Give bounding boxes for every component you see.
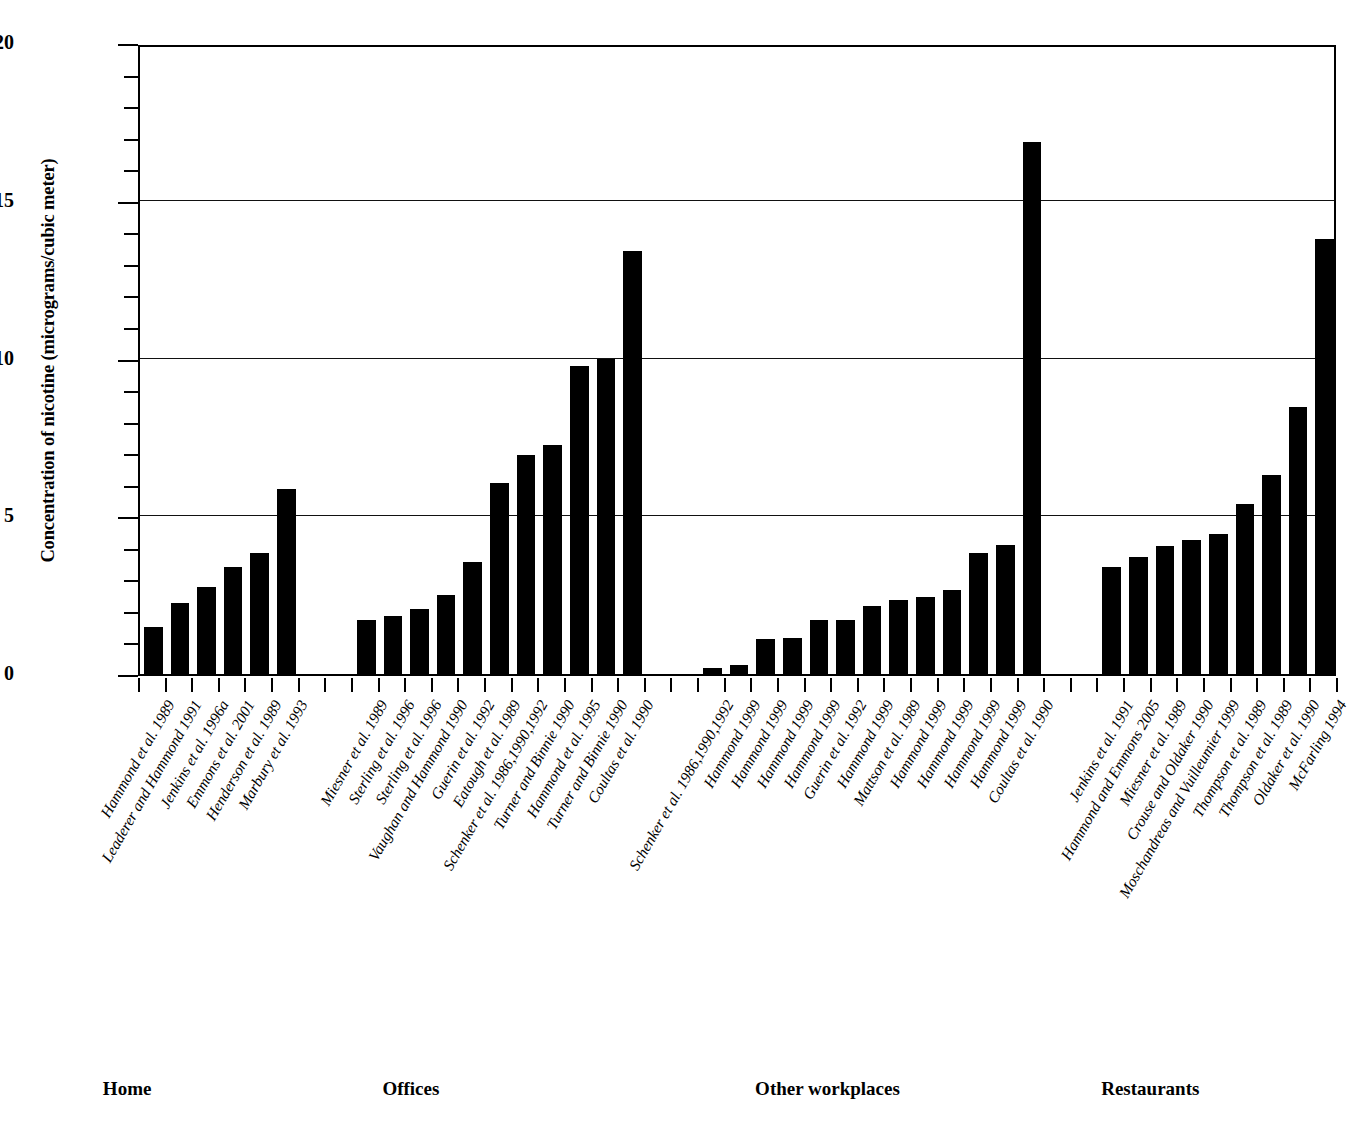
x-tick: [324, 678, 326, 692]
x-tick: [271, 678, 273, 692]
bar: [224, 567, 243, 674]
bar: [1102, 567, 1121, 674]
y-axis-title: Concentration of nicotine (micrograms/cu…: [38, 41, 59, 681]
y-tick-0: [118, 675, 138, 677]
y-tick-label-20: 20: [0, 31, 14, 54]
x-tick: [404, 678, 406, 692]
bar: [1156, 546, 1175, 674]
x-tick: [883, 678, 885, 692]
bar: [543, 445, 562, 674]
y-tick-9: [124, 391, 138, 393]
bar: [943, 590, 962, 674]
bar: [810, 620, 829, 674]
x-tick: [617, 678, 619, 692]
x-tick: [378, 678, 380, 692]
bar: [1262, 475, 1281, 674]
bar: [570, 366, 589, 674]
bar: [410, 609, 429, 674]
x-tick: [431, 678, 433, 692]
y-tick-20: [118, 44, 138, 46]
x-tick: [1203, 678, 1205, 692]
bar: [1182, 540, 1201, 674]
x-tick: [138, 678, 140, 692]
x-tick: [1309, 678, 1311, 692]
x-tick: [218, 678, 220, 692]
y-tick-17: [124, 139, 138, 141]
bar: [1289, 407, 1308, 674]
bars-layer: [140, 47, 1334, 674]
x-tick: [1256, 678, 1258, 692]
bar: [384, 616, 403, 674]
x-tick: [1070, 678, 1072, 692]
group-label-other-workplaces: Other workplaces: [755, 1078, 900, 1100]
bar: [863, 606, 882, 674]
y-tick-7: [124, 454, 138, 456]
bar: [730, 665, 749, 674]
y-tick-5: [118, 517, 138, 519]
bar: [1236, 504, 1255, 674]
bar: [490, 483, 509, 674]
bar: [703, 668, 722, 674]
bar: [1209, 534, 1228, 674]
bar: [969, 553, 988, 674]
plot-area: [138, 45, 1336, 676]
bar: [783, 638, 802, 674]
x-tick: [244, 678, 246, 692]
x-tick: [591, 678, 593, 692]
y-tick-16: [124, 170, 138, 172]
y-tick-label-10: 10: [0, 347, 14, 370]
x-tick: [351, 678, 353, 692]
bar: [357, 620, 376, 674]
x-tick: [804, 678, 806, 692]
x-tick: [511, 678, 513, 692]
x-tick: [457, 678, 459, 692]
y-tick-10: [118, 360, 138, 362]
y-tick-label-15: 15: [0, 189, 14, 212]
y-tick-14: [124, 233, 138, 235]
nicotine-concentration-bar-chart: Concentration of nicotine (micrograms/cu…: [0, 0, 1359, 1143]
bar: [756, 639, 775, 674]
bar: [144, 627, 163, 674]
x-tick: [830, 678, 832, 692]
x-tick: [1096, 678, 1098, 692]
bar: [836, 620, 855, 674]
y-tick-13: [124, 265, 138, 267]
x-tick: [937, 678, 939, 692]
y-tick-19: [124, 76, 138, 78]
bar: [597, 359, 616, 675]
bar: [1315, 239, 1334, 674]
y-tick-15: [118, 202, 138, 204]
bar: [996, 545, 1015, 674]
x-tick: [537, 678, 539, 692]
bar: [916, 597, 935, 674]
y-tick-2: [124, 612, 138, 614]
group-label-offices: Offices: [382, 1078, 439, 1100]
x-tick: [1230, 678, 1232, 692]
bar: [437, 595, 456, 674]
x-tick: [165, 678, 167, 692]
bar: [197, 587, 216, 674]
x-tick: [1176, 678, 1178, 692]
x-tick: [1043, 678, 1045, 692]
x-tick: [963, 678, 965, 692]
y-tick-3: [124, 580, 138, 582]
x-tick: [1336, 678, 1338, 692]
y-tick-12: [124, 296, 138, 298]
x-tick: [1123, 678, 1125, 692]
y-tick-6: [124, 486, 138, 488]
x-tick: [750, 678, 752, 692]
bar: [517, 455, 536, 674]
x-tick: [990, 678, 992, 692]
x-tick: [1150, 678, 1152, 692]
x-tick: [857, 678, 859, 692]
y-tick-8: [124, 423, 138, 425]
y-tick-1: [124, 643, 138, 645]
bar: [171, 603, 190, 674]
bar: [889, 600, 908, 674]
y-tick-18: [124, 107, 138, 109]
bar: [250, 553, 269, 674]
bar: [463, 562, 482, 674]
x-tick: [191, 678, 193, 692]
x-tick: [670, 678, 672, 692]
y-tick-4: [124, 549, 138, 551]
